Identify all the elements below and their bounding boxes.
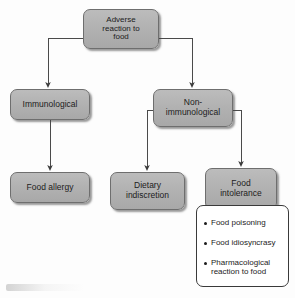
node-food-allergy[interactable]: Food allergy <box>10 172 90 203</box>
scan-artifact <box>6 284 84 291</box>
list-item: Pharmacological reaction to food <box>201 258 284 276</box>
node-dietary-indiscretion[interactable]: Dietary indiscretion <box>110 172 185 210</box>
node-food-allergy-label: Food allergy <box>13 183 87 193</box>
node-non-immunological[interactable]: Non- immunological <box>153 89 233 127</box>
list-item-text-continued: reaction to food <box>211 267 270 276</box>
bullet-dot-icon <box>204 242 207 245</box>
edge-adverse-to-nonimmunological <box>159 38 192 85</box>
list-item-text: Pharmacological <box>211 258 270 267</box>
node-non-immunological-line-2: immunological <box>156 108 230 118</box>
edge-nonimmunological-to-foodintolerance <box>233 110 241 164</box>
node-adverse-line-3: food <box>86 33 156 42</box>
node-adverse-reaction-to-food[interactable]: Adverse reaction to food <box>83 9 159 49</box>
list-item-text: Food poisoning <box>211 218 266 227</box>
node-food-intolerance[interactable]: Food intolerance <box>205 168 277 210</box>
node-dietary-line-2: indiscretion <box>113 191 182 201</box>
list-item: Food idiosyncrasy <box>201 238 284 247</box>
food-intolerance-examples-list: Food poisoning Food idiosyncrasy Pharmac… <box>196 205 289 287</box>
node-food-intolerance-line-2: intolerance <box>208 189 274 199</box>
edge-adverse-to-immunological <box>48 38 83 85</box>
node-immunological[interactable]: Immunological <box>10 89 90 120</box>
bullet-dot-icon <box>204 262 207 265</box>
node-immunological-label: Immunological <box>13 100 87 110</box>
bullet-dot-icon <box>204 222 207 225</box>
flowchart-canvas: Adverse reaction to food Immunological N… <box>0 0 295 298</box>
list-item-text: Food idiosyncrasy <box>211 238 275 247</box>
list-item: Food poisoning <box>201 218 284 227</box>
